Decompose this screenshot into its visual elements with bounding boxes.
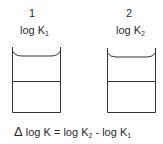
vessel-2	[108, 48, 156, 113]
term2-sub: 1	[127, 132, 131, 139]
vessel-1-meniscus	[13, 51, 61, 56]
delta-symbol: Δ	[14, 124, 23, 139]
equation-term1: log K2	[63, 126, 92, 138]
equation-minus: -	[95, 126, 99, 138]
term1-sub: 2	[88, 132, 92, 139]
vessels-drawing	[0, 0, 163, 144]
vessel-1-walls	[13, 47, 61, 113]
term1-base: log K	[63, 126, 88, 138]
vessel-2-walls	[108, 48, 156, 113]
vessel-1	[13, 47, 61, 113]
vessel-2-meniscus	[108, 53, 156, 57]
term2-base: log K	[102, 126, 127, 138]
equation-lhs: log K	[26, 126, 51, 138]
equation-term2: log K1	[102, 126, 131, 138]
equation: Δ log K = log K2 - log K1	[14, 124, 131, 139]
equation-equals: =	[54, 126, 60, 138]
